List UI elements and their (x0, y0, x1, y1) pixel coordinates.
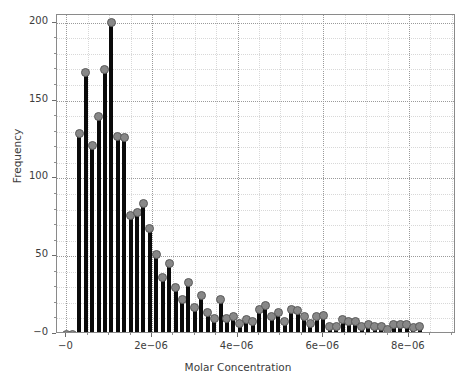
stem-bar (90, 146, 94, 333)
stem-bar (154, 255, 158, 333)
stem-series (57, 15, 454, 332)
x-axis-tick-minor (344, 333, 345, 335)
data-point-marker (216, 295, 225, 304)
y-axis-tick (52, 22, 56, 23)
data-point-marker (100, 65, 109, 74)
data-point-marker (68, 330, 77, 334)
data-point-marker (88, 141, 97, 150)
stem-bar (116, 136, 120, 333)
data-point-marker (210, 314, 219, 323)
stem-bar (135, 213, 139, 333)
data-point-marker (145, 224, 154, 233)
x-axis-tick-label: 6e−06 (292, 340, 352, 351)
y-axis-tick (52, 255, 56, 256)
data-point-marker (178, 295, 187, 304)
data-point-marker (197, 291, 206, 300)
data-point-marker (94, 112, 103, 121)
stem-bar (129, 216, 133, 333)
x-axis-title: Molar Concentration (0, 361, 476, 373)
data-point-marker (261, 301, 270, 310)
data-point-marker (139, 199, 148, 208)
data-point-marker (120, 133, 129, 142)
x-axis-tick (408, 333, 409, 337)
y-axis-tick-minor (54, 240, 56, 241)
y-axis-tick-label: 200 (8, 15, 48, 26)
data-point-marker (75, 129, 84, 138)
x-axis-tick-label: −0 (35, 340, 95, 351)
stem-bar (167, 264, 171, 333)
y-axis-tick-minor (54, 209, 56, 210)
data-point-marker (190, 303, 199, 312)
x-axis-tick-minor (108, 333, 109, 335)
y-axis-tick (52, 100, 56, 101)
data-point-marker (133, 208, 142, 217)
stem-bar (122, 138, 126, 333)
stem-bar (77, 133, 81, 333)
y-axis-tick-minor (54, 193, 56, 194)
data-point-marker (319, 311, 328, 320)
data-point-marker (184, 278, 193, 287)
y-axis-tick (52, 177, 56, 178)
x-axis-tick-minor (279, 333, 280, 335)
stem-bar (97, 116, 101, 333)
data-point-marker (248, 317, 257, 326)
y-axis-tick-minor (54, 162, 56, 163)
y-axis-title: Frequency (11, 101, 23, 211)
x-axis-tick (65, 333, 66, 337)
x-axis-tick-label: 4e−06 (207, 340, 267, 351)
data-point-marker (107, 18, 116, 27)
y-axis-tick-label: 50 (8, 248, 48, 259)
x-axis-tick-minor (451, 333, 452, 335)
x-axis-tick-minor (172, 333, 173, 335)
data-point-marker (274, 308, 283, 317)
y-axis-tick-minor (54, 68, 56, 69)
x-axis-tick-label: 2e−06 (121, 340, 181, 351)
y-axis-tick-label: −0 (8, 326, 48, 337)
x-axis-tick (151, 333, 152, 337)
x-axis-tick-minor (215, 333, 216, 335)
y-axis-tick-minor (54, 317, 56, 318)
data-point-marker (152, 250, 161, 259)
stem-bar (109, 23, 113, 333)
stem-plot-figure: −02e−064e−066e−068e−06−050100150200 Mola… (0, 0, 476, 391)
x-axis-tick-minor (387, 333, 388, 335)
y-axis-tick-minor (54, 286, 56, 287)
x-axis-tick-label: 8e−06 (378, 340, 438, 351)
x-axis-tick (322, 333, 323, 337)
data-point-marker (81, 68, 90, 77)
x-axis-tick (237, 333, 238, 337)
y-axis-tick-minor (54, 302, 56, 303)
data-point-marker (171, 283, 180, 292)
x-axis-tick-minor (130, 333, 131, 335)
x-axis-tick-minor (258, 333, 259, 335)
data-point-marker (415, 322, 424, 331)
stem-bar (263, 306, 267, 333)
y-axis-tick-minor (54, 53, 56, 54)
x-axis-tick-minor (194, 333, 195, 335)
stem-bar (103, 69, 107, 333)
y-axis-tick (52, 333, 56, 334)
stem-bar (174, 287, 178, 333)
stem-bar (180, 300, 184, 333)
data-point-marker (280, 317, 289, 326)
y-axis-tick-minor (54, 271, 56, 272)
plot-area (56, 14, 455, 333)
x-axis-tick-minor (429, 333, 430, 335)
stem-bar (161, 278, 165, 333)
x-axis-tick-minor (365, 333, 366, 335)
y-axis-tick-minor (54, 37, 56, 38)
y-axis-tick-minor (54, 146, 56, 147)
stem-bar (84, 73, 88, 333)
data-point-marker (158, 273, 167, 282)
stem-bar (141, 203, 145, 333)
stem-bar (148, 228, 152, 333)
y-axis-tick-minor (54, 84, 56, 85)
y-axis-tick-minor (54, 115, 56, 116)
x-axis-tick-minor (301, 333, 302, 335)
data-point-marker (165, 259, 174, 268)
x-axis-tick-minor (87, 333, 88, 335)
y-axis-tick-minor (54, 224, 56, 225)
y-axis-tick-minor (54, 131, 56, 132)
